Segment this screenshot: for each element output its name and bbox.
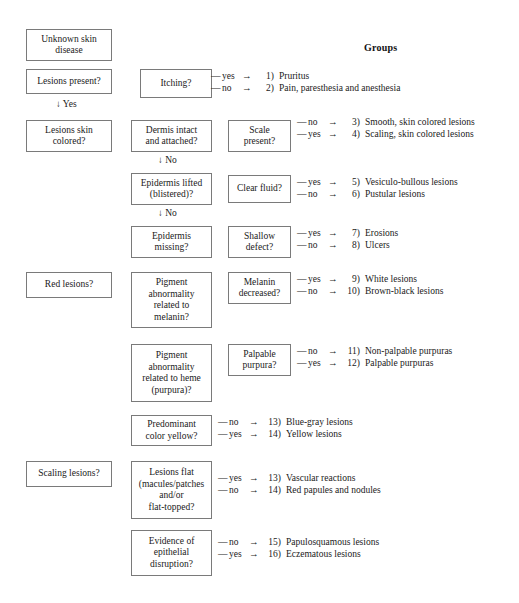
- outcome-number: 5): [343, 176, 365, 188]
- outcomes-predominant-color-yellow: —no→13)Blue-gray lesions—yes→14)Yellow l…: [218, 416, 353, 440]
- outcome-arrow-icon: →: [249, 428, 264, 440]
- outcome-dash: —: [297, 357, 308, 369]
- outcome-row: —yes→14)Yellow lesions: [218, 428, 353, 440]
- outcome-arrow-icon: →: [249, 484, 264, 496]
- outcome-row: —no→11)Non-palpable purpuras: [297, 345, 452, 357]
- outcome-number: 4): [343, 128, 365, 140]
- node-predominant-color-yellow[interactable]: Predominantcolor yellow?: [131, 415, 212, 446]
- outcomes-palpable-purpura: —no→11)Non-palpable purpuras—yes→12)Palp…: [297, 345, 452, 369]
- node-melanin-decreased[interactable]: Melanindecreased?: [228, 272, 291, 304]
- outcome-dash: —: [297, 227, 308, 239]
- node-label: Pigmentabnormalityrelated tomelanin?: [149, 277, 195, 323]
- outcome-arrow-icon: →: [328, 345, 343, 357]
- outcome-number: 11): [343, 345, 365, 357]
- outcome-number: 10): [343, 285, 365, 297]
- outcome-text: White lesions: [365, 273, 417, 285]
- outcome-arrow-icon: →: [328, 239, 343, 251]
- outcome-dash: —: [218, 416, 229, 428]
- outcome-dash: —: [297, 128, 308, 140]
- outcome-row: —no→13)Blue-gray lesions: [218, 416, 353, 428]
- outcome-dash: —: [211, 82, 222, 94]
- flowchart-page: Groups Unknown skindisease Lesions prese…: [0, 0, 519, 603]
- outcome-text: Vascular reactions: [286, 472, 355, 484]
- outcome-answer: yes: [222, 70, 242, 82]
- outcome-answer: no: [229, 536, 249, 548]
- outcome-arrow-icon: →: [328, 188, 343, 200]
- node-shallow-defect[interactable]: Shallowdefect?: [228, 226, 291, 258]
- outcome-number: 7): [343, 227, 365, 239]
- outcomes-scale-present: —no→3)Smooth, skin colored lesions—yes→4…: [297, 116, 475, 140]
- outcome-row: —no→2)Pain, paresthesia and anesthesia: [211, 82, 400, 94]
- outcome-row: —no→6)Pustular lesions: [297, 188, 458, 200]
- outcome-row: —no→15)Papulosquamous lesions: [218, 536, 379, 548]
- node-label: Pigmentabnormalityrelated to heme(purpur…: [142, 350, 201, 396]
- flow-arrow-no-dermis-intact: ↓ No: [158, 155, 177, 166]
- outcome-number: 12): [343, 357, 365, 369]
- outcome-dash: —: [297, 239, 308, 251]
- outcomes-epithelial-disruption: —no→15)Papulosquamous lesions—yes→16)Ecz…: [218, 536, 379, 560]
- outcome-answer: yes: [229, 472, 249, 484]
- outcome-number: 3): [343, 116, 365, 128]
- outcome-text: Scaling, skin colored lesions: [365, 128, 474, 140]
- outcome-text: Vesiculo-bullous lesions: [365, 176, 458, 188]
- node-epidermis-missing[interactable]: Epidermismissing?: [131, 226, 212, 258]
- node-lesions-present[interactable]: Lesions present?: [26, 69, 112, 94]
- outcome-text: Pustular lesions: [365, 188, 425, 200]
- outcome-number: 8): [343, 239, 365, 251]
- outcome-dash: —: [218, 484, 229, 496]
- outcome-dash: —: [297, 273, 308, 285]
- flow-arrow-yes-lesions-present: ↓ Yes: [56, 99, 77, 110]
- outcome-text: Palpable purpuras: [365, 357, 433, 369]
- outcomes-clear-fluid: —yes→5)Vesiculo-bullous lesions—no→6)Pus…: [297, 176, 458, 200]
- outcome-dash: —: [297, 188, 308, 200]
- outcome-text: Ulcers: [365, 239, 390, 251]
- outcome-answer: yes: [308, 273, 328, 285]
- outcome-text: Yellow lesions: [286, 428, 342, 440]
- outcome-row: —no→10)Brown-black lesions: [297, 285, 443, 297]
- outcome-text: Erosions: [365, 227, 398, 239]
- node-evidence-epithelial-disruption[interactable]: Evidence ofepithelialdisruption?: [131, 530, 212, 576]
- outcomes-lesions-flat: —yes→13)Vascular reactions—no→14)Red pap…: [218, 472, 381, 496]
- outcome-text: Pruritus: [279, 70, 309, 82]
- node-lesions-skin-colored[interactable]: Lesions skincolored?: [26, 120, 112, 152]
- node-label: Shallowdefect?: [244, 231, 275, 254]
- outcome-text: Brown-black lesions: [365, 285, 443, 297]
- outcome-answer: yes: [308, 176, 328, 188]
- outcome-number: 2): [257, 82, 279, 94]
- node-unknown-skin-disease[interactable]: Unknown skindisease: [26, 29, 112, 61]
- node-scale-present[interactable]: Scalepresent?: [228, 120, 291, 152]
- node-red-lesions[interactable]: Red lesions?: [26, 272, 112, 298]
- outcomes-shallow-defect: —yes→7)Erosions—no→8)Ulcers: [297, 227, 398, 251]
- node-scaling-lesions[interactable]: Scaling lesions?: [26, 461, 112, 487]
- outcome-number: 9): [343, 273, 365, 285]
- outcome-answer: no: [308, 239, 328, 251]
- node-label: Lesions present?: [37, 76, 101, 88]
- outcome-dash: —: [218, 472, 229, 484]
- outcome-arrow-icon: →: [328, 128, 343, 140]
- outcome-row: —yes→12)Palpable purpuras: [297, 357, 452, 369]
- outcome-arrow-icon: →: [328, 357, 343, 369]
- outcome-row: —yes→5)Vesiculo-bullous lesions: [297, 176, 458, 188]
- node-itching[interactable]: Itching?: [140, 69, 212, 98]
- node-lesions-flat[interactable]: Lesions flat(macules/patchesand/orflat-t…: [131, 461, 212, 519]
- node-epidermis-lifted-blistered[interactable]: Epidermis lifted(blistered)?: [131, 173, 212, 205]
- outcome-dash: —: [218, 428, 229, 440]
- outcome-arrow-icon: →: [249, 472, 264, 484]
- node-dermis-intact-and-attached[interactable]: Dermis intactand attached?: [131, 120, 212, 152]
- outcome-answer: yes: [229, 428, 249, 440]
- outcome-arrow-icon: →: [242, 82, 257, 94]
- outcome-arrow-icon: →: [328, 227, 343, 239]
- node-palpable-purpura[interactable]: Palpablepurpura?: [228, 344, 291, 376]
- outcome-answer: no: [308, 345, 328, 357]
- outcome-answer: yes: [229, 548, 249, 560]
- node-label: Clear fluid?: [237, 183, 282, 195]
- outcome-arrow-icon: →: [328, 273, 343, 285]
- node-clear-fluid[interactable]: Clear fluid?: [228, 175, 291, 203]
- node-pigment-abnormality-heme[interactable]: Pigmentabnormalityrelated to heme(purpur…: [131, 344, 212, 402]
- node-pigment-abnormality-melanin[interactable]: Pigmentabnormalityrelated tomelanin?: [131, 272, 212, 328]
- outcome-text: Smooth, skin colored lesions: [365, 116, 475, 128]
- outcome-dash: —: [211, 70, 222, 82]
- outcome-row: —yes→7)Erosions: [297, 227, 398, 239]
- outcome-number: 1): [257, 70, 279, 82]
- outcome-number: 14): [264, 484, 286, 496]
